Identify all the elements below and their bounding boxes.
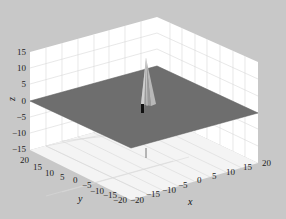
svg-text:−10: −10 [162,185,177,195]
x-axis-label: x [187,196,193,207]
svg-text:20: 20 [262,158,272,168]
svg-text:−5: −5 [16,112,26,122]
svg-text:15: 15 [243,162,253,172]
svg-text:5: 5 [212,171,217,181]
svg-text:15: 15 [17,47,27,57]
svg-text:10: 10 [45,168,55,178]
svg-text:5: 5 [60,172,65,182]
svg-text:−20: −20 [113,195,128,205]
svg-text:−5: −5 [178,180,188,190]
surface-plot-svg: 15 10 5 0 −5 −10 −15 z 20 15 10 5 0 −5 −… [0,0,286,219]
svg-text:5: 5 [22,79,27,89]
svg-text:0: 0 [73,175,78,185]
svg-text:−20: −20 [130,195,145,205]
svg-text:10: 10 [226,167,236,177]
svg-text:−10: −10 [12,128,27,138]
svg-text:−15: −15 [146,189,161,199]
y-axis-label: y [77,193,83,204]
z-axis-label: z [6,97,17,102]
svg-text:0: 0 [22,96,27,106]
surface-plot-figure: 15 10 5 0 −5 −10 −15 z 20 15 10 5 0 −5 −… [0,0,286,219]
svg-text:20: 20 [20,155,30,165]
svg-text:−15: −15 [12,144,27,154]
svg-text:15: 15 [33,162,43,172]
svg-text:10: 10 [17,63,27,73]
svg-text:0: 0 [197,175,202,185]
